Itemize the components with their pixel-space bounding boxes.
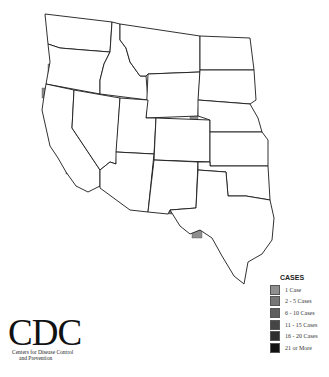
state-wyoming <box>146 72 200 118</box>
cases-legend: CASES 1 Case2 - 5 Cases6 - 10 Cases11 - … <box>270 274 329 354</box>
state-outline-layer <box>42 14 274 284</box>
legend-swatch <box>270 308 280 318</box>
state-north-dakota <box>200 36 254 70</box>
legend-swatch <box>270 320 280 330</box>
legend-label: 21 or More <box>285 345 312 351</box>
state-new-mexico <box>148 160 198 214</box>
legend-swatch <box>270 331 280 341</box>
state-kansas <box>210 132 268 166</box>
cdc-logo: CDC Centers for Disease Control and Prev… <box>8 316 81 361</box>
legend-swatch <box>270 296 280 306</box>
state-south-dakota <box>198 70 256 104</box>
cdc-logo-mark: CDC <box>8 316 81 350</box>
legend-label: 1 Case <box>285 287 301 293</box>
legend-swatch <box>270 285 280 295</box>
legend-item: 16 - 20 Cases <box>270 330 329 342</box>
legend-item: 21 or More <box>270 342 329 354</box>
cdc-logo-line2: and Prevention <box>19 356 81 362</box>
legend-label: 6 - 10 Cases <box>285 310 315 316</box>
legend-title: CASES <box>280 274 329 281</box>
legend-label: 2 - 5 Cases <box>285 298 312 304</box>
cdc-logo-subtitle: Centers for Disease Control and Preventi… <box>12 350 81 361</box>
legend-item: 11 - 15 Cases <box>270 319 329 331</box>
legend-item: 1 Case <box>270 284 329 296</box>
legend-label: 11 - 15 Cases <box>285 322 317 328</box>
legend-label: 16 - 20 Cases <box>285 333 318 339</box>
legend-item: 6 - 10 Cases <box>270 307 329 319</box>
legend-items: 1 Case2 - 5 Cases6 - 10 Cases11 - 15 Cas… <box>270 284 329 354</box>
legend-item: 2 - 5 Cases <box>270 296 329 308</box>
state-colorado <box>154 118 210 162</box>
us-west-case-map <box>0 0 329 300</box>
legend-swatch <box>270 343 280 353</box>
